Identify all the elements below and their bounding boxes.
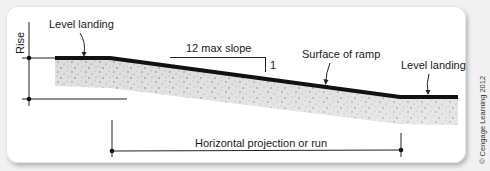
bottom-landing-label: Level landing [401,59,466,71]
top-landing-label: Level landing [49,18,114,30]
top-landing-arrow [80,33,87,57]
surface-label: Surface of ramp [302,48,380,60]
copyright-credit: © Cengage Learning 2012 [478,76,487,164]
concrete-section [55,58,458,125]
rise-label: Rise [14,32,26,54]
slope-label: 12 max slope [186,42,251,54]
slope-rise-label: 1 [270,59,276,71]
ramp-diagram: Rise Level landing 12 max slope 1 Surfac… [0,0,490,171]
run-label: Horizontal projection or run [195,137,327,149]
bottom-landing-arrow [426,74,431,95]
surface-arrow [324,63,331,85]
